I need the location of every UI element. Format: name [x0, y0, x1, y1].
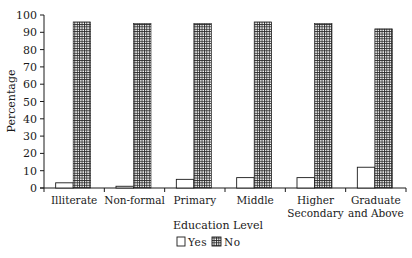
x-category-label: Secondary	[287, 207, 343, 219]
bar-no	[375, 29, 393, 188]
bar-no	[254, 22, 272, 188]
legend-label-yes: Yes	[187, 236, 207, 248]
legend-label-no: No	[224, 236, 241, 248]
y-axis-title: Percentage	[5, 70, 18, 133]
legend-swatch-yes	[177, 237, 185, 246]
y-tick-label: 50	[23, 96, 37, 109]
bar-no	[194, 24, 212, 188]
x-category-label: Graduate	[351, 194, 401, 206]
x-axis-title: Education Level	[173, 219, 264, 232]
bars	[56, 22, 393, 188]
x-category-label: Higher	[297, 194, 335, 206]
y-axis: 0102030405060708090100	[16, 9, 44, 195]
x-category-label: and Above	[348, 207, 404, 219]
y-tick-label: 80	[23, 44, 37, 57]
x-category-label: Middle	[237, 194, 274, 206]
bar-yes	[357, 167, 375, 188]
x-category-label: Illiterate	[51, 194, 97, 206]
y-tick-label: 100	[16, 9, 37, 22]
legend: Yes No	[177, 236, 241, 248]
y-tick-label: 30	[23, 130, 37, 143]
y-tick-label: 0	[30, 182, 37, 195]
bar-no	[134, 24, 152, 188]
bar-yes	[56, 183, 74, 188]
bar-yes	[237, 178, 255, 188]
bar-no	[315, 24, 333, 188]
bar-no	[73, 22, 91, 188]
x-axis	[40, 188, 406, 192]
category-labels: IlliterateNon-formalPrimaryMiddleHigherS…	[51, 194, 404, 219]
y-tick-label: 90	[23, 26, 37, 39]
x-category-label: Primary	[174, 194, 217, 206]
y-tick-label: 10	[23, 165, 37, 178]
bar-yes	[176, 179, 194, 188]
y-tick-label: 40	[23, 113, 37, 126]
y-tick-label: 20	[23, 147, 37, 160]
bar-yes	[297, 178, 315, 188]
y-tick-label: 60	[23, 78, 37, 91]
y-tick-label: 70	[23, 61, 37, 74]
x-category-label: Non-formal	[104, 194, 165, 206]
bar-chart: 0102030405060708090100 IlliterateNon-for…	[0, 0, 412, 258]
bar-yes	[116, 186, 134, 188]
legend-swatch-no	[212, 237, 221, 246]
